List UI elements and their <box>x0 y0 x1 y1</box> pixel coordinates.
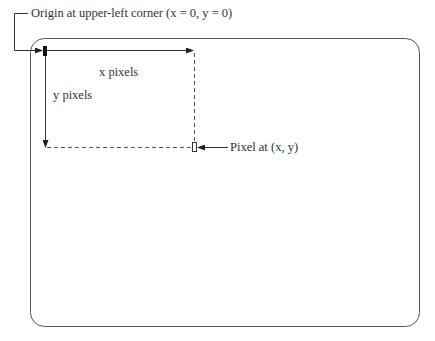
origin-label: Origin at upper-left corner (x = 0, y = … <box>31 7 232 20</box>
y-pixels-label: y pixels <box>53 89 92 102</box>
screen-frame <box>31 39 420 327</box>
pixel-label: Pixel at (x, y) <box>230 141 298 154</box>
x-pixels-label: x pixels <box>99 66 138 79</box>
origin-marker <box>43 46 47 56</box>
target-pixel-marker <box>193 143 197 152</box>
coordinate-diagram <box>0 0 435 341</box>
